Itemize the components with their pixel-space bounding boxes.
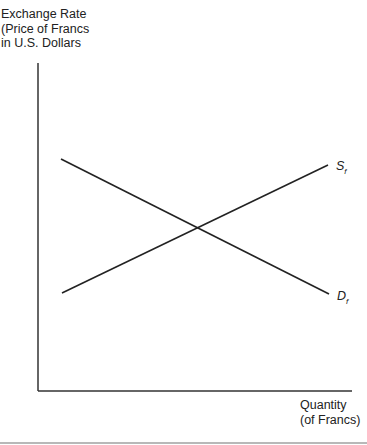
demand-curve-label: Df [337, 289, 348, 306]
supply-curve-label: Sf [336, 159, 347, 176]
supply-demand-diagram [0, 0, 367, 445]
x-axis-label: Quantity (of Francs) [300, 398, 360, 427]
bottom-divider [0, 442, 367, 444]
